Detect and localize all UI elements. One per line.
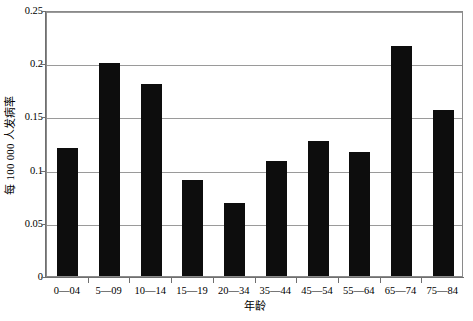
x-axis-tick-label: 10—14 [129,285,171,297]
y-axis-tick-label: 0.25 [16,6,43,16]
x-axis-tick-label: 35—44 [255,285,297,297]
bar [308,141,329,276]
x-axis-title: 年龄 [46,300,463,313]
bar [99,63,120,276]
x-axis-tick-mark [296,278,297,283]
y-axis-tick-mark [41,277,46,278]
x-axis-tick-mark [380,278,381,283]
y-axis-tick-label: 0.2 [16,59,43,69]
y-axis-tick-mark [41,117,46,118]
y-axis-tick-mark [41,64,46,65]
bar [141,84,162,276]
y-axis-tick-label: 0.1 [16,166,43,176]
bar [57,148,78,276]
x-axis-tick-mark [129,278,130,283]
x-axis-tick-label: 0—04 [46,285,88,297]
bar [224,203,245,276]
x-axis-tick-mark [338,278,339,283]
x-axis-tick-label: 65—74 [380,285,422,297]
bar [349,152,370,276]
y-axis-tick-label: 0.15 [16,112,43,122]
x-axis-tick-label: 15—19 [171,285,213,297]
bar [266,161,287,276]
y-axis-title-text: 每 100 000 人发病率 [1,95,17,194]
gridline [47,12,462,13]
x-axis-tick-label: 20—34 [213,285,255,297]
bar [391,46,412,276]
x-axis-tick-mark [171,278,172,283]
y-axis-tick-mark [41,11,46,12]
bar [182,180,203,276]
y-axis-tick-label: 0.05 [16,219,43,229]
y-axis-tick-labels: 00.050.10.150.20.25 [16,0,43,290]
y-axis-tick-mark [41,224,46,225]
y-axis-tick-label: 0 [16,272,43,282]
x-axis-tick-label: 55—64 [338,285,380,297]
plot-area [46,11,463,277]
x-axis-tick-mark [88,278,89,283]
bar [433,110,454,276]
x-axis-tick-mark [421,278,422,283]
x-axis-tick-mark [213,278,214,283]
x-axis-tick-mark [255,278,256,283]
x-axis-tick-label: 75—84 [421,285,463,297]
x-axis-tick-label: 5—09 [88,285,130,297]
bar-chart: 每 100 000 人发病率 00.050.10.150.20.25 年龄 0—… [0,0,473,321]
y-axis-tick-mark [41,171,46,172]
x-axis-tick-label: 45—54 [296,285,338,297]
